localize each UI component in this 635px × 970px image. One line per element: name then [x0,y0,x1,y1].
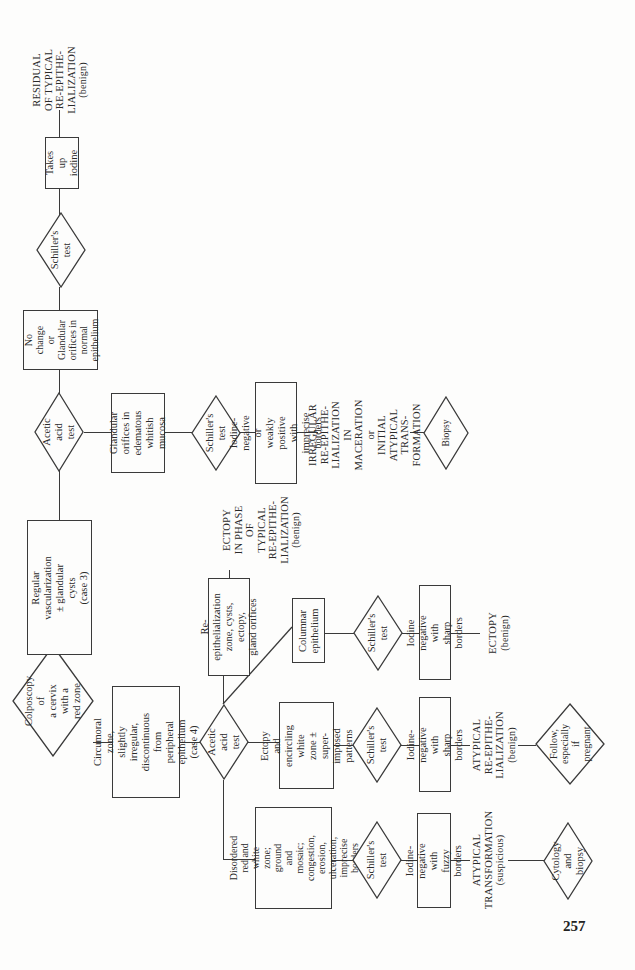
atypical-reepith-qualifier: (benign) [506,727,517,762]
atypical-transformation-qualifier: (suspicious) [494,835,505,886]
root-decision: Colposcopy of a cervix with a red zone [12,645,94,757]
biopsy-action: Biopsy [423,396,469,470]
takes-up-iodine-label: Takes up iodine [44,150,80,176]
glandular-edematous-box: Glandular orifices in edematous whitish … [111,393,165,473]
atypical-reepith-diagnosis: ATYPICAL RE-EPITHE- LIALIZATION (benign) [468,700,520,790]
connector [59,470,60,520]
glandular-edematous-label: Glandular orifices in edematous whitish … [108,411,168,456]
ectopy-white-label: Ectopy and encircling white zone ± super… [259,725,355,767]
disordered-iodine-label: Iodine-negative with fuzzy borders [404,843,464,879]
no-change-label: No change or Glandular orifices in norma… [22,319,99,362]
ectopy-phase-diagnosis-label: ECTOPY IN PHASE OF TYPICAL RE-EPITHE- LI… [221,496,290,564]
ectopy-white-schiller: Schiller's test [352,707,402,783]
columnar-epithelium-box: Columnar epithelium [292,598,325,663]
connector [508,860,544,861]
disordered-box: Disordered red and white zone; ground an… [255,807,332,909]
residual-diagnosis: RESIDUAL OF TYPICAL RE-EPITHE- LIALIZATI… [30,40,90,120]
case3-acetic-label: Acetic acid test [41,418,77,445]
biopsy-label: Biopsy [440,420,452,447]
no-change-box: No change or Glandular orifices in norma… [23,310,98,370]
flowchart-page: Colposcopy of a cervix with a red zone R… [0,0,635,970]
root-label: Colposcopy of a cervix with a red zone [23,676,83,726]
ectopy-qualifier: (benign) [498,615,509,650]
irregular-diagnosis-label: IRREGULAR RE-EPITHE- LIALIZATION IN MACE… [307,400,422,471]
follow-action: Follow, especially if pregnant [535,703,605,785]
case3-upper-schiller-label: Schiller's test [49,231,73,270]
connector [164,432,192,433]
disordered-schiller-label: Schiller's test [365,841,389,880]
ectopy-white-schiller-label: Schiller's test [365,726,389,765]
reepithelialization-box: Re-epithelialization zone, cysts, ectopy… [208,578,250,676]
disordered-iodine-box: Iodine-negative with fuzzy borders [417,813,451,908]
case3-lower-schiller-label: Schiller's test [204,414,228,453]
irregular-diagnosis: IRREGULAR RE-EPITHE- LIALIZATION IN MACE… [318,380,410,490]
ectopy-phase-diagnosis: ECTOPY IN PHASE OF TYPICAL RE-EPITHE- LI… [205,490,317,570]
ectopy-diagnosis-label: ECTOPY [487,612,498,654]
case3-acetic-test: Acetic acid test [34,392,84,472]
case4-finding-box: Circumoral zone, slightly irregular, dis… [112,686,180,798]
cytology-biopsy-action: Cytology and biopsy [543,822,593,900]
cytology-biopsy-label: Cytology and biopsy [550,841,586,880]
ectopy-white-iodine-box: Iodine-negative with sharp borders [419,697,451,792]
case4-finding-label: Circumoral zone, slightly irregular, dis… [92,713,200,771]
columnar-iodine-box: Iodine negative with sharp borders [419,585,451,680]
residual-diagnosis-label: RESIDUAL OF TYPICAL RE-EPITHE- LIALIZATI… [31,46,77,114]
takes-up-iodine-box: Takes up iodine [45,137,79,189]
case3-finding-label: Regular vascularization ± glandular cyst… [30,556,90,620]
connector [518,745,536,746]
ectopy-white-iodine-label: Iodine-negative with sharp borders [405,727,465,763]
residual-qualifier: (benign) [77,62,88,97]
reepithelialization-label: Re-epithelialization zone, cysts, ectopy… [199,593,259,661]
atypical-reepith-label: ATYPICAL RE-EPITHE- LIALIZATION [471,711,505,779]
disordered-schiller: Schiller's test [352,821,402,899]
columnar-schiller-label: Schiller's test [366,614,390,653]
columnar-schiller: Schiller's test [353,595,403,671]
connector [223,780,224,860]
case3-finding-box: Regular vascularization ± glandular cyst… [27,520,92,655]
atypical-transformation-label: ATYPICAL TRANSFORMATION [471,811,494,909]
ectopy-diagnosis: ECTOPY (benign) [478,600,518,666]
columnar-label: Columnar epithelium [297,608,321,653]
case3-upper-schiller: Schiller's test [36,212,86,288]
page-number: 257 [563,918,586,935]
follow-label: Follow, especially if pregnant [548,724,592,764]
disordered-label: Disordered red and white zone; ground an… [228,835,360,881]
atypical-transformation-diagnosis: ATYPICAL TRANSFORMATION (suspicious) [468,800,508,920]
case4-acetic-test: Acetic acid test [199,704,249,780]
ectopy-phase-qualifier: (benign) [290,512,301,547]
connector [324,633,354,634]
columnar-iodine-label: Iodine negative with sharp borders [405,615,465,651]
ectopy-white-box: Ectopy and encircling white zone ± super… [279,702,334,789]
iodine-imprecise-box: Iodine-negative or weakly positive with … [255,382,297,484]
case4-acetic-label: Acetic acid test [206,728,242,755]
